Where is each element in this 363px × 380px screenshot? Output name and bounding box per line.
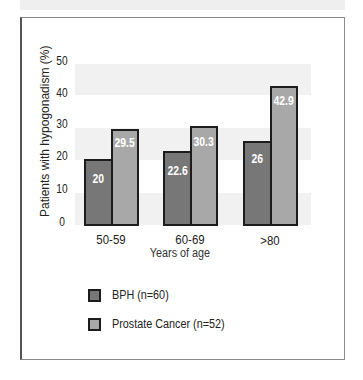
y-tick-0: 0	[54, 215, 71, 229]
y-tick-10: 10	[54, 182, 71, 196]
bar-bph-50-59: 20	[84, 159, 113, 226]
y-tick-30: 30	[54, 117, 71, 131]
x-tick-60-69: 60-69	[159, 232, 221, 247]
bar-bph-60-69: 22.6	[163, 151, 192, 226]
bar-prostate-cancer-60-69: 30.3	[190, 126, 218, 226]
bar-value-label: 22.6	[167, 163, 187, 178]
legend-swatch-light-gray	[88, 318, 101, 331]
legend-swatch-dark-gray	[88, 289, 101, 302]
bar-bph-over-80: 26	[243, 141, 272, 226]
legend-item-prostate-cancer: Prostate Cancer (n=52)	[88, 317, 237, 331]
bar-value-label: 30.3	[194, 134, 214, 149]
bar-chart: Patients with hypogonadism (%) 50 40 30 …	[0, 0, 363, 380]
bar-prostate-cancer-over-80: 42.9	[270, 86, 298, 226]
y-tick-40: 40	[54, 86, 71, 100]
x-tick-over-80: >80	[239, 233, 301, 248]
y-tick-50: 50	[54, 54, 71, 68]
bar-value-label: 26	[252, 151, 264, 166]
x-tick-50-59: 50-59	[80, 232, 142, 247]
y-axis-label: Patients with hypogonadism (%)	[38, 67, 52, 217]
bar-prostate-cancer-50-59: 29.5	[111, 129, 139, 226]
legend-item-bph: BPH (n=60)	[88, 288, 175, 302]
y-tick-20: 20	[54, 149, 71, 163]
legend-label: BPH (n=60)	[112, 288, 169, 302]
bar-value-label: 20	[93, 171, 105, 186]
bar-value-label: 42.9	[274, 93, 294, 108]
legend-label: Prostate Cancer (n=52)	[112, 317, 225, 331]
x-axis-label: Years of age	[117, 246, 243, 260]
bar-value-label: 29.5	[115, 135, 135, 150]
